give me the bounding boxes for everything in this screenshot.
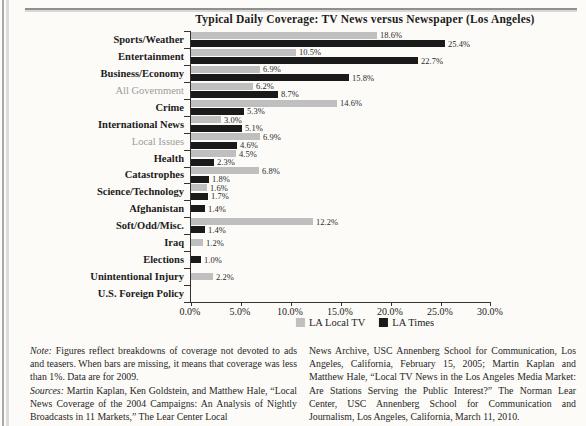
category-row: 3.0%5.1% [191, 116, 491, 133]
bar-la-local-tv: 1.2% [191, 239, 203, 246]
category-row: 4.5%2.3% [191, 150, 491, 167]
bar-value-label: 6.9% [263, 65, 281, 74]
category-axis-labels: Sports/WeatherEntertainmentBusiness/Econ… [28, 31, 190, 302]
legend-item: LA Times [379, 317, 434, 328]
y-axis-tick [184, 150, 190, 151]
chart-title: Typical Daily Coverage: TV News versus N… [195, 13, 534, 25]
bar-la-local-tv: 2.2% [191, 273, 213, 280]
category-row: 18.6%25.4% [191, 31, 491, 48]
note-label: Note: [30, 345, 52, 356]
x-tick-label: 25.0% [427, 306, 453, 317]
x-tick-label: 10.0% [277, 306, 303, 317]
bar-la-local-tv: 6.9% [191, 66, 260, 73]
category-label: Catastrophes [28, 167, 190, 184]
sources-text: Martin Kaplan, Ken Goldstein, and Matthe… [30, 385, 297, 422]
category-label: Local Issues [28, 133, 190, 150]
sources-label: Sources: [30, 385, 64, 396]
bar-value-label: 6.8% [262, 167, 280, 176]
bar-value-label: 1.2% [206, 239, 224, 248]
bar-slot: 4.6% [191, 142, 491, 149]
bar-la-times: 25.4% [191, 40, 445, 47]
bar-value-label: 2.2% [216, 273, 234, 282]
legend-item: LA Local TV [296, 317, 365, 328]
bar-la-times: 5.3% [191, 108, 244, 115]
y-axis-tick [184, 200, 190, 201]
page-edge-shadow [6, 0, 9, 426]
footnote-left-column: Note: Figures reflect breakdowns of cove… [30, 344, 297, 423]
bar-value-label: 4.5% [239, 150, 257, 159]
bar-la-times: 4.6% [191, 142, 237, 149]
category-row: 1.2% [191, 234, 491, 251]
category-row: 1.4% [191, 200, 491, 217]
y-axis-tick [184, 82, 190, 83]
category-row: 6.8%1.8% [191, 167, 491, 184]
bar-la-local-tv: 6.8% [191, 167, 259, 174]
y-axis-tick [184, 99, 190, 100]
bar-slot: 1.7% [191, 193, 491, 200]
y-axis-tick [184, 31, 190, 32]
y-axis-tick [184, 65, 190, 66]
y-axis-tick [184, 217, 190, 218]
y-axis-tick [184, 285, 190, 286]
bar-slot: 4.5% [191, 150, 491, 157]
x-tick-label: 15.0% [327, 306, 353, 317]
bar-value-label: 14.6% [340, 99, 362, 108]
bar-la-local-tv: 18.6% [191, 32, 377, 39]
bar-slot: 6.9% [191, 66, 491, 73]
bar-la-local-tv: 3.0% [191, 116, 221, 123]
bar-slot: 1.0% [191, 256, 491, 263]
category-row: 6.9%15.8% [191, 65, 491, 82]
bar-slot: 6.8% [191, 167, 491, 174]
bar-value-label: 22.7% [421, 57, 443, 65]
bar-slot: 6.9% [191, 133, 491, 140]
bar-slot: 2.2% [191, 273, 491, 280]
bar-value-label: 1.0% [204, 256, 222, 265]
y-axis-tick [184, 268, 190, 269]
bar-value-label: 8.7% [281, 91, 299, 100]
bar-la-times: 2.3% [191, 159, 214, 166]
x-tick-label: 5.0% [230, 306, 251, 317]
bar-la-times: 8.7% [191, 91, 278, 98]
legend-label: LA Times [392, 317, 434, 328]
bar-la-local-tv: 4.5% [191, 150, 236, 157]
note-text: Figures reflect breakdowns of coverage n… [30, 345, 297, 382]
plot-area-wrap: Sports/WeatherEntertainmentBusiness/Econ… [28, 31, 491, 302]
bar-slot: 5.3% [191, 108, 491, 115]
bar-slot: 12.2% [191, 218, 491, 225]
bar-la-local-tv: 12.2% [191, 218, 313, 225]
bar-slot: 1.6% [191, 184, 491, 191]
bar-slot: 15.8% [191, 74, 491, 81]
bar-la-local-tv: 1.6% [191, 184, 207, 191]
y-axis-tick [184, 251, 190, 252]
category-label: Business/Economy [28, 65, 190, 82]
category-row: 1.0% [191, 251, 491, 268]
bar-slot: 5.1% [191, 125, 491, 132]
legend-swatch [379, 318, 388, 327]
category-row: 2.2% [191, 268, 491, 285]
category-label: Afghanistan [28, 200, 190, 217]
bar-slot: 2.3% [191, 159, 491, 166]
bar-la-local-tv: 14.6% [191, 100, 337, 107]
bar-la-times: 5.1% [191, 125, 242, 132]
bar-slot: 22.7% [191, 57, 491, 64]
page-edge-line [2, 0, 4, 426]
category-row: 10.5%22.7% [191, 48, 491, 65]
y-axis-tick [184, 48, 190, 49]
bar-la-times: 22.7% [191, 57, 418, 64]
bar-slot: 25.4% [191, 40, 491, 47]
y-axis-tick [184, 234, 190, 235]
y-axis-tick [184, 302, 190, 303]
bar-slot: 6.2% [191, 83, 491, 90]
category-label: Health [28, 150, 190, 167]
bar-slot: 14.6% [191, 100, 491, 107]
bar-slot: 10.5% [191, 49, 491, 56]
y-axis-tick [184, 183, 190, 184]
y-axis-tick [184, 167, 190, 168]
bar-value-label: 2.3% [217, 158, 235, 167]
bar-value-label: 5.1% [245, 124, 263, 133]
category-label: Sports/Weather [28, 31, 190, 48]
x-tick-label: 30.0% [477, 306, 503, 317]
category-row: 14.6%5.3% [191, 99, 491, 116]
plot-area: 18.6%25.4%10.5%22.7%6.9%15.8%6.2%8.7%14.… [190, 31, 491, 303]
bar-value-label: 15.8% [352, 74, 374, 83]
